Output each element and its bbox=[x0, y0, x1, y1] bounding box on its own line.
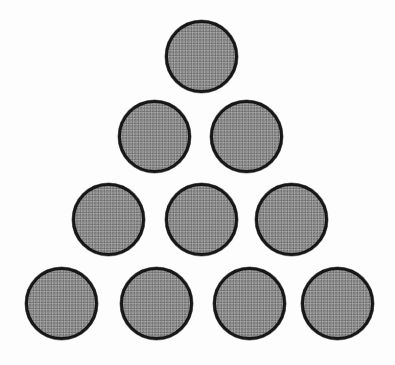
circle-row2-col2 bbox=[210, 100, 283, 173]
circle-row3-col1 bbox=[72, 183, 145, 256]
circle-row4-col2 bbox=[120, 267, 193, 340]
circle-row2-col1 bbox=[118, 100, 191, 173]
circle-row3-col3 bbox=[255, 183, 328, 256]
figure-canvas bbox=[0, 0, 395, 365]
circle-row4-col4 bbox=[301, 267, 374, 340]
circle-row4-col3 bbox=[213, 267, 286, 340]
circle-row4-col1 bbox=[25, 267, 98, 340]
circle-row1-col1 bbox=[165, 20, 238, 93]
circle-row3-col2 bbox=[165, 183, 238, 256]
